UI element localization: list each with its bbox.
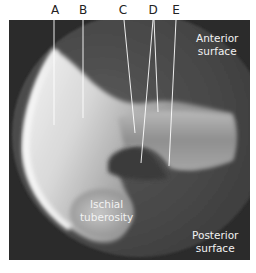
posterior-surface-line2: surface [192, 242, 238, 255]
ischial-tuberosity-line2: tuberosity [80, 211, 133, 224]
ischial-tuberosity-line1: Ischial [80, 198, 133, 211]
label-e: E [172, 3, 180, 17]
anterior-surface-line1: Anterior [196, 32, 238, 45]
label-b: B [79, 3, 87, 17]
anterior-surface-label: Anterior surface [196, 32, 238, 58]
posterior-surface-label: Posterior surface [192, 229, 238, 255]
ischial-tuberosity-label: Ischial tuberosity [80, 198, 133, 224]
label-c: C [119, 3, 127, 17]
label-d: D [148, 3, 157, 17]
label-a: A [51, 3, 59, 17]
posterior-surface-line1: Posterior [192, 229, 238, 242]
anterior-surface-line2: surface [196, 45, 238, 58]
